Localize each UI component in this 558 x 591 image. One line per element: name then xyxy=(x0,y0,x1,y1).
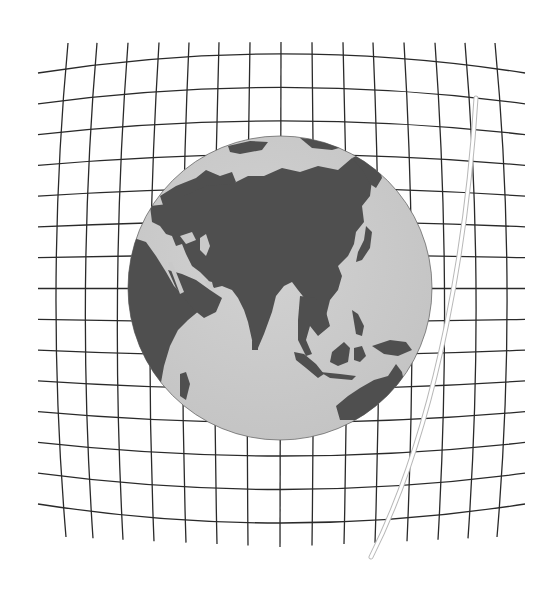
grid-vertical-line xyxy=(117,43,128,540)
grid-vertical-line xyxy=(85,43,97,538)
grid-horizontal-line xyxy=(38,121,525,135)
grid-horizontal-line xyxy=(38,473,525,489)
globe xyxy=(110,136,432,440)
spacetime-grid-figure: Spacetime grid curved around Earth with … xyxy=(0,0,558,591)
grid-vertical-line xyxy=(495,43,507,537)
grid-vertical-line xyxy=(56,43,68,537)
grid-horizontal-line xyxy=(38,442,525,456)
grid-vertical-line xyxy=(435,43,445,540)
grid-horizontal-line xyxy=(38,504,525,523)
